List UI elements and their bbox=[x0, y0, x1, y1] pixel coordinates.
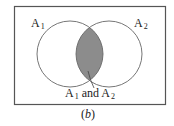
set-a2-label: A2 bbox=[134, 17, 148, 31]
intersection-first-base: A bbox=[65, 86, 74, 100]
intersection-label: A1 and A2 bbox=[65, 87, 115, 101]
caption-close-paren: ) bbox=[91, 107, 95, 121]
figure-caption: (b) bbox=[0, 107, 174, 122]
intersection-conjunction: and bbox=[79, 86, 102, 100]
set-a2-base: A bbox=[134, 16, 143, 30]
intersection-second-sub: 2 bbox=[111, 92, 115, 101]
set-a2-subscript: 2 bbox=[144, 22, 148, 31]
set-a1-label: A1 bbox=[31, 17, 45, 31]
intersection-second-base: A bbox=[101, 86, 110, 100]
set-a1-base: A bbox=[31, 16, 40, 30]
set-a1-subscript: 1 bbox=[41, 22, 45, 31]
